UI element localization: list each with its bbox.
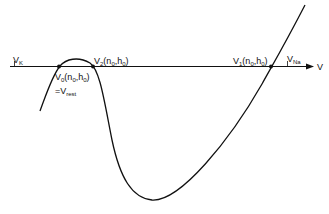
current-voltage-curve (40, 5, 305, 200)
v1-label: V1(n0,h0) (233, 56, 268, 67)
fixed-point-v1 (269, 65, 273, 69)
axis-label-v: V (317, 62, 323, 72)
diagram-canvas: V VK VNa V0(n0,h0) =Vrest V2(n0,h0) V1(n… (0, 0, 329, 214)
v2-label: V2(n0,h0) (94, 56, 129, 67)
axis-arrow-icon (306, 64, 314, 70)
fixed-point-v0 (57, 65, 61, 69)
vk-label: VK (13, 55, 23, 66)
v-rest-label: =Vrest (55, 86, 77, 97)
vna-label: VNa (287, 54, 301, 65)
v0-label: V0(n0,h0) (55, 72, 90, 83)
